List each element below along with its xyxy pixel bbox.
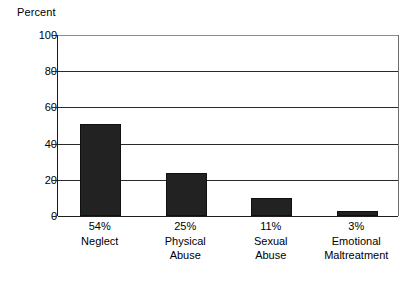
plot-area [57, 35, 399, 216]
gridline-80 [58, 71, 398, 72]
x-axis-label-percent: 3% [301, 219, 413, 234]
x-axis-label-name-line2: Maltreatment [301, 248, 413, 263]
bar-emotional-maltreatment [337, 211, 378, 216]
y-tick-label-100: 100 [9, 30, 57, 41]
bar-sexual-abuse [251, 198, 292, 216]
gridline-100 [58, 35, 398, 36]
y-tick-label-20: 20 [9, 175, 57, 186]
x-axis-label-layer: 54%Neglect25%PhysicalAbuse11%SexualAbuse… [57, 219, 399, 281]
y-axis-tick-layer: 100806040200 [0, 35, 57, 216]
y-tick-label-60: 60 [9, 102, 57, 113]
bar-physical-abuse [166, 173, 207, 216]
bar-chart: Percent 100806040200 54%Neglect25%Physic… [0, 0, 418, 283]
x-axis-label-name-line1: Emotional [301, 234, 413, 249]
y-axis-title: Percent [17, 6, 56, 19]
y-tick-mark-0 [52, 216, 57, 217]
y-tick-label-40: 40 [9, 139, 57, 150]
gridline-60 [58, 107, 398, 108]
x-axis-label-3: 3%EmotionalMaltreatment [301, 219, 413, 263]
y-tick-label-80: 80 [9, 66, 57, 77]
bar-neglect [80, 124, 121, 216]
gridline-0 [58, 216, 398, 217]
